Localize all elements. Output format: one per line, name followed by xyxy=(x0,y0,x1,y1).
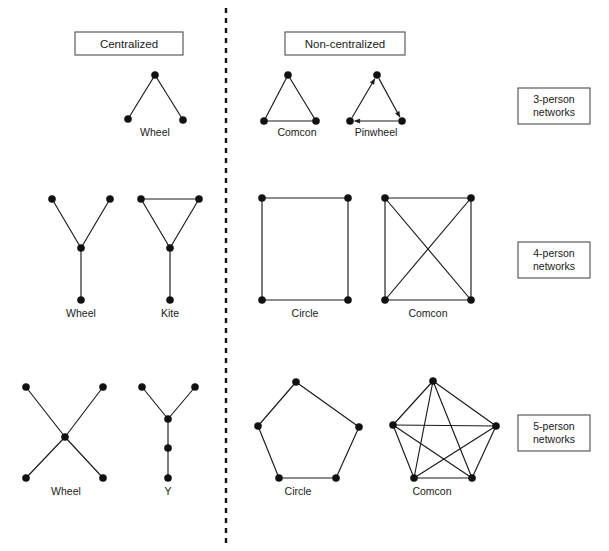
network-edge xyxy=(296,382,359,427)
network-edge-directed xyxy=(379,79,400,117)
network-node xyxy=(260,117,267,124)
network-node xyxy=(61,433,68,440)
network-edge xyxy=(393,425,472,478)
network-edge xyxy=(155,75,183,120)
network-node xyxy=(468,474,475,481)
column-headers-layer: CentralizedNon-centralized xyxy=(75,32,405,55)
figure-canvas: WheelComconPinwheelWheelKiteCircleComcon… xyxy=(0,0,609,551)
network-edge xyxy=(393,381,433,425)
row-label-line2: networks xyxy=(533,260,575,272)
network-node xyxy=(381,296,388,303)
network-node xyxy=(164,444,171,451)
network-edge xyxy=(258,382,296,426)
network-name-label: Circle xyxy=(285,485,312,497)
network-edge xyxy=(264,75,288,121)
network-node xyxy=(151,71,158,78)
row-label-line1: 4-person xyxy=(533,247,575,259)
network-node xyxy=(275,474,282,481)
network-node xyxy=(467,296,474,303)
row-label-line1: 3-person xyxy=(533,93,575,105)
network-nodes-layer xyxy=(22,71,499,481)
network-node xyxy=(77,296,84,303)
network-node xyxy=(398,117,405,124)
network-node xyxy=(258,194,265,201)
network-node xyxy=(166,244,173,251)
network-edge xyxy=(142,387,168,419)
network-node xyxy=(22,383,29,390)
network-node xyxy=(373,71,380,78)
network-edges-layer xyxy=(26,75,496,478)
network-edge-directed xyxy=(352,79,375,117)
network-node xyxy=(344,296,351,303)
network-edge xyxy=(393,425,414,478)
network-name-label: Wheel xyxy=(66,307,96,319)
network-name-label: Pinwheel xyxy=(355,126,398,138)
network-node xyxy=(77,244,84,251)
network-edge xyxy=(26,387,65,437)
network-name-label: Kite xyxy=(161,307,179,319)
network-edge xyxy=(128,75,155,119)
network-node xyxy=(355,423,362,430)
network-edge xyxy=(168,387,195,419)
network-edge xyxy=(26,437,65,478)
arrowhead-icon xyxy=(395,111,399,117)
network-edge xyxy=(336,427,359,478)
network-edge xyxy=(141,199,170,248)
network-name-label: Comcon xyxy=(408,307,447,319)
network-edge xyxy=(288,75,316,121)
network-node xyxy=(106,195,113,202)
network-node xyxy=(254,422,261,429)
network-node xyxy=(124,115,131,122)
network-node xyxy=(284,71,291,78)
network-node xyxy=(344,194,351,201)
network-node xyxy=(191,383,198,390)
arrowhead-icon xyxy=(355,119,360,123)
network-node xyxy=(166,296,173,303)
network-name-label: Y xyxy=(164,485,171,497)
network-node xyxy=(137,195,144,202)
network-node xyxy=(332,474,339,481)
network-name-label: Wheel xyxy=(51,485,81,497)
network-edge xyxy=(81,199,110,248)
row-label-line1: 5-person xyxy=(533,420,575,432)
arrowhead-icon xyxy=(370,79,375,85)
network-edge xyxy=(258,426,279,478)
network-node xyxy=(258,296,265,303)
network-edge xyxy=(414,381,433,478)
row-label-line2: networks xyxy=(533,106,575,118)
network-edge xyxy=(393,425,496,426)
network-node xyxy=(22,474,29,481)
network-edge xyxy=(52,199,81,248)
network-node xyxy=(389,421,396,428)
network-edge xyxy=(65,437,103,478)
network-edge xyxy=(65,387,103,437)
column-header-label: Non-centralized xyxy=(305,38,386,50)
network-node xyxy=(164,415,171,422)
network-node xyxy=(410,474,417,481)
network-node xyxy=(381,194,388,201)
network-structures-figure: WheelComconPinwheelWheelKiteCircleComcon… xyxy=(0,0,609,551)
network-node xyxy=(138,383,145,390)
network-node xyxy=(48,195,55,202)
network-name-label: Circle xyxy=(292,307,319,319)
network-node xyxy=(312,117,319,124)
network-node xyxy=(99,474,106,481)
row-label-line2: networks xyxy=(533,433,575,445)
network-edge xyxy=(170,199,199,248)
network-node xyxy=(164,474,171,481)
network-node xyxy=(429,377,436,384)
network-node xyxy=(346,117,353,124)
network-labels-layer: WheelComconPinwheelWheelKiteCircleComcon… xyxy=(51,126,452,497)
network-name-label: Comcon xyxy=(412,485,451,497)
network-node xyxy=(292,378,299,385)
network-name-label: Comcon xyxy=(277,126,316,138)
network-node xyxy=(99,383,106,390)
row-labels-layer: 3-personnetworks4-personnetworks5-person… xyxy=(518,88,590,451)
network-name-label: Wheel xyxy=(140,126,170,138)
column-header-label: Centralized xyxy=(100,38,158,50)
network-node xyxy=(179,116,186,123)
network-node xyxy=(467,194,474,201)
network-node xyxy=(195,195,202,202)
network-node xyxy=(492,422,499,429)
